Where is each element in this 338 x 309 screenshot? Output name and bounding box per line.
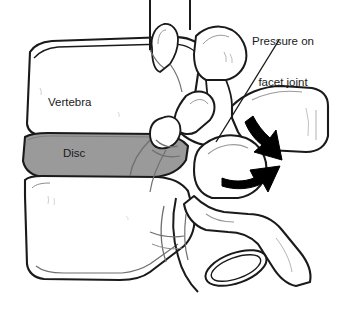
transverse-process-ring [201, 243, 271, 293]
anatomy-illustration: Vertebra Disc Pressure on facet joint [0, 0, 338, 309]
lower-vertebral-body [25, 176, 195, 280]
label-vertebra: Vertebra [48, 96, 91, 110]
label-pressure-on-facet-joint: Pressure on facet joint [252, 8, 314, 117]
label-disc: Disc [63, 147, 85, 161]
label-pressure-line2: facet joint [252, 76, 314, 90]
label-pressure-line1: Pressure on [252, 35, 314, 49]
